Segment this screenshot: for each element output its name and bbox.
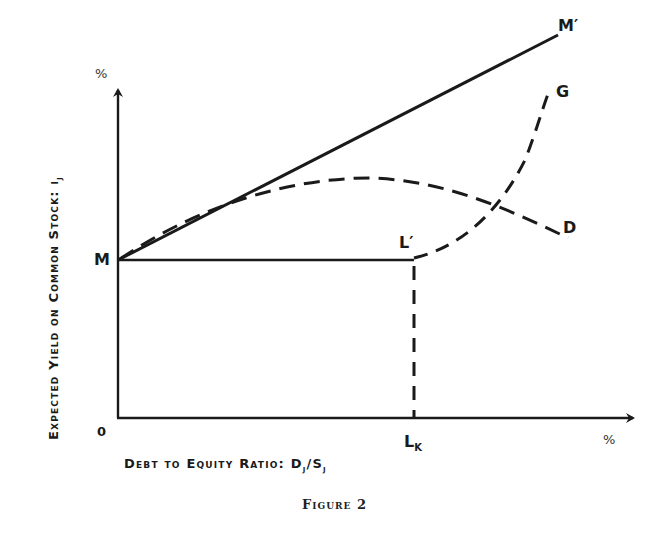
point-label-m: M	[94, 250, 110, 269]
y-axis-title-text: Expected Yield on Common Stock: i	[46, 180, 61, 440]
point-label-l-prime: L′	[399, 233, 413, 252]
lk-subscript: K	[414, 442, 422, 453]
y-axis-title: Expected Yield on Common Stock: ij	[46, 176, 64, 440]
point-label-lk: LK	[404, 432, 422, 453]
lk-main: L	[404, 432, 414, 451]
y-axis-unit: %	[95, 66, 107, 81]
figure-caption: Figure 2	[0, 497, 669, 512]
x-axis-title-mid: /S	[307, 456, 324, 471]
line-m-m-prime	[118, 35, 558, 260]
y-axis-title-sub: j	[53, 176, 64, 180]
origin-label: 0	[97, 424, 106, 439]
point-label-m-prime: M′	[558, 16, 578, 35]
curve-l-prime-g	[414, 94, 548, 258]
curve-m-d	[120, 178, 568, 259]
point-label-g: G	[556, 82, 569, 101]
point-label-d: D	[563, 218, 576, 237]
x-axis-title-sub2: j	[323, 463, 327, 474]
x-axis-title-text: Debt to Equity Ratio: D	[124, 456, 303, 471]
x-axis-title: Debt to Equity Ratio: Dj/Sj	[124, 456, 327, 474]
x-axis-unit: %	[603, 432, 615, 447]
